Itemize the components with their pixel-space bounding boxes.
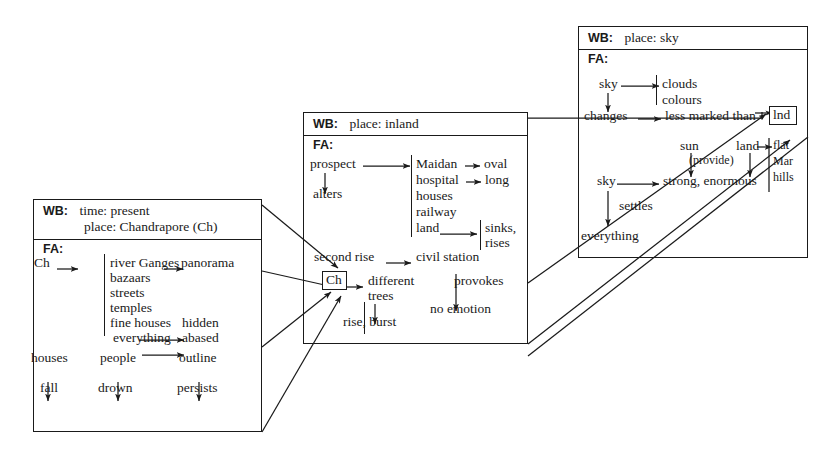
fa-body-sky: FA: sky clouds colours changes less mark…: [579, 50, 807, 280]
fa-body-inland: FA: prospect alters Maidan oval hospital…: [304, 136, 527, 366]
node-different: different: [368, 273, 414, 288]
node-sky-second: sky: [597, 173, 616, 188]
node-rise-burst: rise, burst: [343, 314, 396, 329]
node-everything-sky: everything: [581, 228, 639, 243]
node-strong-enormous: strong, enormous: [663, 173, 757, 188]
node-sky-first: sky: [599, 76, 618, 91]
node-fine-houses: fine houses: [110, 315, 171, 330]
node-sinks: sinks,: [485, 220, 516, 235]
list-bracket-chandrapore: [104, 254, 105, 336]
node-streets: streets: [110, 285, 145, 300]
node-fall: fall: [40, 380, 58, 395]
wb-label: WB:: [43, 204, 68, 218]
node-drown: drown: [98, 380, 133, 395]
wb-header-chandrapore: WB: time: present place: Chandrapore (Ch…: [34, 200, 261, 240]
node-river: river Ganges: [110, 255, 179, 270]
node-houses-inland: houses: [416, 188, 453, 203]
node-provide: (provide): [689, 153, 734, 168]
node-railway: railway: [416, 204, 456, 219]
node-land: land: [416, 220, 439, 235]
node-sun: sun: [680, 138, 699, 153]
node-second-rise: second rise: [314, 249, 374, 264]
box-inland: WB: place: inland FA: prospect alters Ma…: [303, 112, 528, 344]
node-everything: everything: [113, 330, 171, 345]
list-bracket-inland: [411, 155, 412, 237]
node-land-sky: land: [736, 138, 759, 153]
node-less-marked-than: less marked than: [665, 108, 756, 123]
node-maidan: Maidan: [416, 156, 457, 171]
node-flat: flat: [773, 138, 789, 153]
fa-label: FA:: [313, 138, 521, 153]
node-lnd-boxed: lnd: [769, 106, 797, 125]
node-mar: Mar: [773, 154, 793, 169]
node-alters: alters: [313, 186, 342, 201]
node-long: long: [485, 172, 509, 187]
wb-header-inland: WB: place: inland: [304, 113, 527, 136]
node-people: people: [100, 350, 136, 365]
list-bracket-clouds: [656, 75, 657, 105]
node-no-emotion: no emotion: [430, 301, 491, 316]
wb-label: WB:: [313, 117, 338, 131]
wb-line-place: place: Chandrapore (Ch): [84, 219, 217, 234]
node-hospital: hospital: [416, 172, 459, 187]
node-houses: houses: [31, 350, 68, 365]
wb-label: WB:: [588, 31, 613, 45]
diagram-canvas: WB: time: present place: Chandrapore (Ch…: [0, 0, 832, 465]
node-bazaars: bazaars: [110, 270, 150, 285]
node-settles: settles: [619, 198, 653, 213]
node-changes: changes: [584, 108, 627, 123]
node-oval: oval: [484, 156, 507, 171]
wb-line-place: place: inland: [349, 116, 418, 131]
list-bracket-sinks: [480, 220, 481, 250]
node-hills: hills: [773, 170, 794, 185]
node-trees: trees: [368, 288, 393, 303]
node-clouds: clouds: [662, 76, 697, 91]
node-persists: persists: [177, 380, 218, 395]
node-panorama: panorama: [181, 255, 234, 270]
wb-header-sky: WB: place: sky: [579, 27, 807, 50]
node-colours: colours: [662, 92, 702, 107]
node-prospect: prospect: [310, 156, 356, 171]
node-provokes: provokes: [454, 273, 504, 288]
fa-body-chandrapore: FA: Ch river Ganges panorama bazaars str…: [34, 240, 261, 465]
node-ch: Ch: [34, 255, 50, 270]
node-ch-boxed: Ch: [322, 271, 347, 290]
node-rises: rises: [485, 235, 510, 250]
box-sky: WB: place: sky FA: sky clouds colours ch…: [578, 26, 808, 258]
node-outline: outline: [179, 350, 217, 365]
wb-line-place: place: sky: [624, 30, 678, 45]
node-civil-station: civil station: [416, 249, 479, 264]
node-temples: temples: [110, 300, 152, 315]
wb-line-time: time: present: [79, 203, 149, 218]
node-hidden: hidden: [182, 315, 219, 330]
fa-label: FA:: [588, 52, 801, 67]
node-abased: abased: [182, 330, 219, 345]
box-chandrapore: WB: time: present place: Chandrapore (Ch…: [33, 199, 262, 432]
